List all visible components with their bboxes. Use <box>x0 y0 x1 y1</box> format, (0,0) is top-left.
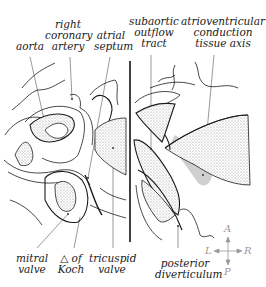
label-av-conduction-tissue-axis: atrioventricular conduction tissue axis <box>181 16 265 49</box>
label-tricuspid-valve: tricuspid valve <box>89 253 135 275</box>
label-aorta: aorta <box>15 41 45 52</box>
label-mitral-valve: mitral valve <box>16 253 48 275</box>
orientation-compass <box>214 237 242 265</box>
label-right-coronary-artery: right coronary artery <box>45 19 91 52</box>
compass-right: R <box>244 245 252 256</box>
compass-anterior: A <box>224 223 231 234</box>
label-atrial-septum: atrial septum <box>94 30 128 52</box>
label-triangle-of-koch: △ of Koch <box>52 253 90 275</box>
compass-posterior: P <box>224 266 231 277</box>
compass-left: L <box>205 245 212 256</box>
leader-dots <box>67 98 204 227</box>
right-panel <box>134 62 250 240</box>
label-subaortic-outflow-tract: subaortic outflow tract <box>129 16 179 49</box>
label-posterior-diverticulum: posterior diverticulum <box>155 258 215 280</box>
left-panel <box>4 63 126 225</box>
